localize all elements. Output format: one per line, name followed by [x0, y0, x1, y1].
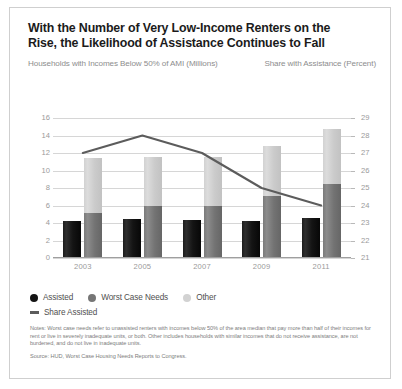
bar-segment-worst-case-needs[interactable]: [84, 213, 102, 258]
left-axis-tick-label: 14: [32, 132, 50, 140]
legend-label-share-assisted: Share Assisted: [44, 308, 97, 317]
x-axis-tick-label: 2009: [232, 262, 292, 271]
bar-segment-other[interactable]: [263, 146, 281, 196]
bar-group: [302, 118, 341, 258]
source-text: Source: HUD, Worst Case Housing Needs Re…: [30, 353, 374, 361]
bar-assisted[interactable]: [183, 220, 201, 258]
legend-item-other[interactable]: Other: [183, 293, 216, 302]
left-axis-tick-label: 12: [32, 149, 50, 157]
chart-legend: AssistedWorst Case NeedsOther Share Assi…: [30, 291, 360, 319]
left-axis-tick-label: 8: [32, 184, 50, 192]
right-axis-tick-label: 24: [361, 202, 369, 210]
right-axis-tickmark: [351, 258, 355, 259]
bar-group: [242, 118, 281, 258]
x-axis-tick-label: 2007: [172, 262, 232, 271]
chart-plot: 0246810121416 212223242526272829 2003200…: [28, 118, 376, 270]
share-assisted-line-swatch: [30, 311, 39, 314]
bar-assisted[interactable]: [63, 221, 81, 258]
left-axis-tick-label: 0: [32, 254, 50, 262]
bar-stack: [263, 146, 281, 258]
bar-stack: [84, 158, 102, 258]
chart-title: With the Number of Very Low-Income Rente…: [28, 21, 358, 50]
left-axis-caption: Households with Incomes Below 50% of AMI…: [28, 59, 218, 70]
right-axis-tick-label: 29: [361, 114, 369, 122]
legend-swatch-icon: [30, 294, 38, 302]
left-axis-tick-label: 2: [32, 237, 50, 245]
right-axis-tick-label: 23: [361, 219, 369, 227]
right-axis-tickmark: [351, 153, 355, 154]
legend-item-assisted[interactable]: Assisted: [30, 293, 73, 302]
right-axis-tickmark: [351, 188, 355, 189]
right-axis-tick-label: 26: [361, 167, 369, 175]
left-axis-tick-label: 4: [32, 219, 50, 227]
right-axis-tick-label: 27: [361, 149, 369, 157]
right-axis-tickmark: [351, 171, 355, 172]
gridline: [53, 258, 351, 259]
bar-group: [183, 118, 222, 258]
axis-captions: Households with Incomes Below 50% of AMI…: [28, 59, 376, 85]
bar-segment-other[interactable]: [144, 157, 162, 205]
bar-group: [63, 118, 102, 258]
chart-footnotes: Notes: Worst case needs refer to unassis…: [30, 325, 374, 360]
bar-stack: [144, 157, 162, 258]
right-axis-tickmark: [351, 118, 355, 119]
right-axis-caption: Share with Assistance (Percent): [264, 59, 376, 70]
bar-segment-worst-case-needs[interactable]: [263, 196, 281, 258]
bar-segment-other[interactable]: [323, 129, 341, 184]
plot-area: 0246810121416 212223242526272829 2003200…: [53, 118, 351, 258]
bar-segment-worst-case-needs[interactable]: [323, 184, 341, 258]
x-axis-tick-label: 2003: [53, 262, 113, 271]
legend-swatch-icon: [88, 294, 96, 302]
right-axis-tick-label: 22: [361, 237, 369, 245]
legend-label: Other: [196, 293, 216, 302]
bar-group: [123, 118, 162, 258]
legend-swatch-icon: [183, 294, 191, 302]
chart-card: With the Number of Very Low-Income Rente…: [9, 7, 391, 379]
bar-segment-worst-case-needs[interactable]: [144, 206, 162, 259]
right-axis-tickmark: [351, 241, 355, 242]
bar-segment-other[interactable]: [204, 157, 222, 207]
x-axis-tick-label: 2005: [112, 262, 172, 271]
legend-label: Assisted: [43, 293, 73, 302]
chart-inner: With the Number of Very Low-Income Rente…: [28, 21, 376, 369]
notes-text: Notes: Worst case needs refer to unassis…: [30, 325, 374, 348]
bar-stack: [323, 129, 341, 259]
bar-assisted[interactable]: [123, 219, 141, 258]
right-axis-tickmark: [351, 206, 355, 207]
x-axis-tick-label: 2011: [291, 262, 351, 271]
bar-segment-worst-case-needs[interactable]: [204, 206, 222, 258]
right-axis-tick-label: 21: [361, 254, 369, 262]
right-axis-tickmark: [351, 136, 355, 137]
bar-segment-other[interactable]: [84, 158, 102, 213]
right-axis-tick-label: 25: [361, 184, 369, 192]
legend-label: Worst Case Needs: [101, 293, 168, 302]
legend-row-bars: AssistedWorst Case NeedsOther: [30, 291, 360, 304]
left-axis-tick-label: 10: [32, 167, 50, 175]
legend-item-worst-case-needs[interactable]: Worst Case Needs: [88, 293, 168, 302]
left-axis-tick-label: 6: [32, 202, 50, 210]
right-axis-tickmark: [351, 223, 355, 224]
bar-assisted[interactable]: [242, 221, 260, 258]
right-axis-tick-label: 28: [361, 132, 369, 140]
bar-assisted[interactable]: [302, 218, 320, 258]
left-axis-tick-label: 16: [32, 114, 50, 122]
legend-row-line: Share Assisted: [30, 306, 360, 319]
bar-stack: [204, 157, 222, 259]
x-axis-baseline: [53, 257, 351, 258]
